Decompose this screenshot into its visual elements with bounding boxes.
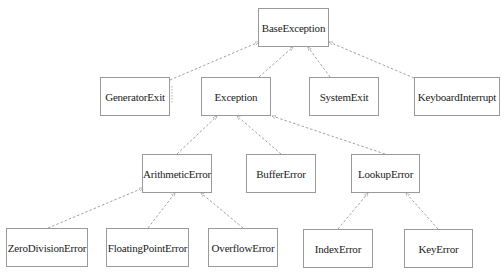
- node-buffer-error: BufferError: [246, 154, 316, 193]
- node-label: BufferError: [256, 168, 306, 180]
- edge-exception-to-baseexception: [259, 47, 293, 77]
- node-arithmetic-error: ArithmeticError: [142, 154, 212, 193]
- node-label: FloatingPointError: [108, 242, 188, 254]
- node-zero-division-error: ZeroDivisionError: [6, 228, 88, 267]
- node-label: ArithmeticError: [143, 168, 211, 180]
- node-label: LookupError: [358, 168, 413, 180]
- edge-floatingpointerror-to-arithmeticerror: [148, 193, 175, 228]
- class-hierarchy-diagram: BaseException GeneratorExit Exception Sy…: [0, 0, 504, 277]
- node-label: IndexError: [315, 243, 361, 255]
- node-label: GeneratorExit: [105, 91, 165, 103]
- node-generator-exit: GeneratorExit: [100, 77, 170, 116]
- node-label: OverflowError: [212, 242, 275, 254]
- inheritance-edges: [48, 42, 438, 229]
- node-exception: Exception: [201, 77, 271, 116]
- node-label: KeyError: [419, 243, 459, 255]
- node-label: BaseException: [262, 22, 325, 34]
- edge-lookuperror-to-exception: [272, 116, 385, 154]
- edge-keyboardinterrupt-to-baseexception: [329, 42, 414, 78]
- edge-generatorexit-to-baseexception: [170, 42, 259, 80]
- edge-indexerror-to-lookuperror: [338, 193, 368, 229]
- node-floating-point-error: FloatingPointError: [106, 228, 189, 267]
- edge-overflowerror-to-arithmeticerror: [201, 193, 243, 228]
- node-label: Exception: [215, 91, 258, 103]
- node-overflow-error: OverflowError: [208, 228, 278, 267]
- edge-zerodivisionerror-to-arithmeticerror: [48, 188, 143, 228]
- node-base-exception: BaseException: [258, 8, 329, 47]
- node-lookup-error: LookupError: [351, 154, 420, 193]
- node-key-error: KeyError: [404, 229, 473, 268]
- node-index-error: IndexError: [303, 229, 373, 268]
- node-system-exit: SystemExit: [309, 77, 379, 116]
- edge-systemexit-to-baseexception: [308, 47, 330, 77]
- node-label: SystemExit: [320, 91, 369, 103]
- edge-buffererror-to-exception: [237, 116, 281, 154]
- node-label: KeyboardInterrupt: [418, 91, 496, 103]
- edge-keyerror-to-lookuperror: [406, 193, 438, 229]
- node-keyboard-interrupt: KeyboardInterrupt: [414, 77, 500, 116]
- node-label: ZeroDivisionError: [8, 242, 86, 254]
- edge-arithmeticerror-to-exception: [177, 116, 217, 154]
